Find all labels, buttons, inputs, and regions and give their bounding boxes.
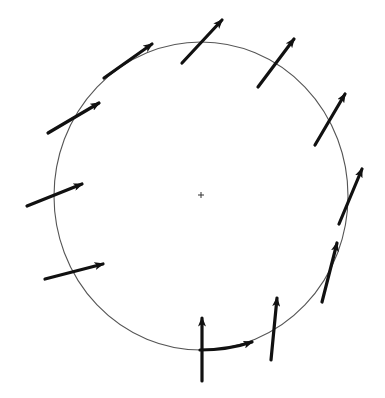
center-cross-icon — [198, 192, 204, 198]
vector-arrow-icon — [48, 103, 99, 133]
diagram-canvas — [0, 0, 385, 398]
vector-field-diagram — [0, 0, 385, 398]
vector-arrow-icon — [104, 44, 152, 78]
vector-arrow-icon — [339, 169, 362, 224]
vector-arrow-icon — [322, 243, 337, 302]
vector-arrow-icon — [200, 342, 252, 350]
vector-arrow-icon — [258, 39, 294, 87]
vector-arrow-icon — [315, 94, 345, 145]
arrows-group — [27, 20, 362, 381]
vector-arrow-icon — [45, 264, 103, 279]
vector-arrow-icon — [182, 20, 222, 63]
